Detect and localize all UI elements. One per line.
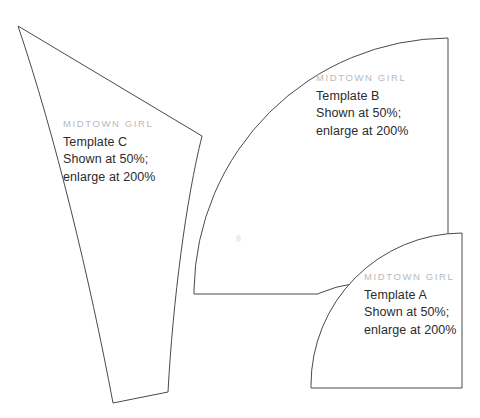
- template-a-enlarge-note: enlarge at 200%: [364, 324, 457, 337]
- pattern-sheet: MIDTOWN GIRL Template C Shown at 50%; en…: [0, 0, 480, 418]
- template-shapes-canvas: [0, 0, 480, 418]
- template-b-enlarge-note: enlarge at 200%: [316, 125, 409, 138]
- brand-wordmark-a: MIDTOWN GIRL: [364, 272, 457, 282]
- brand-wordmark-c: MIDTOWN GIRL: [63, 119, 156, 129]
- template-a-scale-note: Shown at 50%;: [364, 306, 457, 319]
- template-b-label: MIDTOWN GIRL Template B Shown at 50%; en…: [316, 73, 409, 137]
- template-a-name: Template A: [364, 289, 457, 302]
- paper-speck: [236, 235, 241, 242]
- template-a-label: MIDTOWN GIRL Template A Shown at 50%; en…: [364, 272, 457, 336]
- template-b-name: Template B: [316, 90, 409, 103]
- template-c-enlarge-note: enlarge at 200%: [63, 171, 156, 184]
- template-b-scale-note: Shown at 50%;: [316, 107, 409, 120]
- template-c-scale-note: Shown at 50%;: [63, 153, 156, 166]
- template-c-label: MIDTOWN GIRL Template C Shown at 50%; en…: [63, 119, 156, 183]
- brand-wordmark-b: MIDTOWN GIRL: [316, 73, 409, 83]
- template-c-outline: [18, 26, 202, 403]
- template-c-name: Template C: [63, 136, 156, 149]
